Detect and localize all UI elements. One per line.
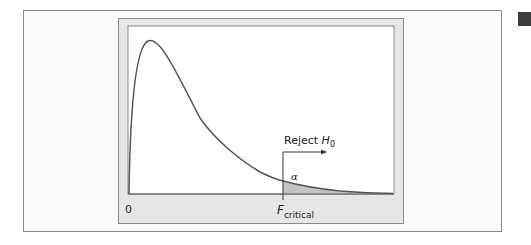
hypothesis-symbol: H (322, 134, 330, 147)
reject-null-label: Reject H0 (284, 134, 335, 147)
x-origin-label: 0 (125, 203, 132, 216)
plot-area (128, 26, 394, 194)
critical-value-subscript: critical (284, 210, 314, 220)
critical-value-label: Fcritical (277, 203, 314, 217)
critical-value-symbol: F (277, 203, 284, 217)
f-distribution-plot (0, 0, 531, 245)
alpha-label: α (291, 171, 298, 182)
reject-text: Reject (284, 134, 322, 147)
hypothesis-subscript: 0 (330, 140, 335, 149)
